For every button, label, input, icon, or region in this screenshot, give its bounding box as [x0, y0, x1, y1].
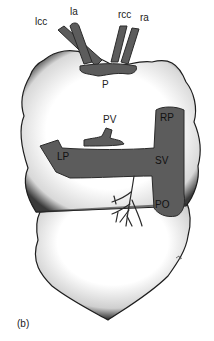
label-lp: LP	[57, 152, 69, 162]
label-rcc: rcc	[118, 10, 131, 20]
ventricle-lower	[35, 200, 190, 320]
heart-diagram	[0, 0, 214, 341]
label-p: P	[102, 80, 109, 90]
label-pv: PV	[103, 115, 116, 125]
label-sv: SV	[155, 156, 168, 166]
label-ra: ra	[140, 13, 149, 23]
figure-caption: (b)	[17, 318, 29, 329]
p-vessel	[80, 64, 137, 76]
label-po: PO	[155, 200, 169, 210]
label-lcc: lcc	[35, 17, 47, 27]
label-rp: RP	[160, 113, 174, 123]
label-la: la	[70, 7, 78, 17]
